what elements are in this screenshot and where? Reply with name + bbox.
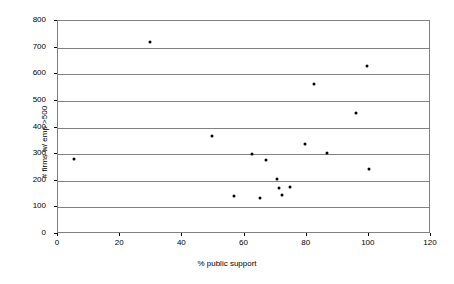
data-point (355, 111, 358, 114)
data-point (148, 40, 151, 43)
gridline-y (58, 74, 429, 75)
y-tick-label: 500 (0, 96, 46, 104)
x-tick-label: 20 (115, 238, 124, 247)
x-tick-label: 60 (239, 238, 248, 247)
x-tick-mark (306, 233, 307, 236)
data-point (313, 82, 316, 85)
gridline-y (58, 181, 429, 182)
y-tick-mark (54, 20, 57, 21)
scatter-chart: # firms w/ emp >500 % public support 010… (0, 0, 454, 284)
gridline-y (58, 128, 429, 129)
y-tick-mark (54, 127, 57, 128)
y-tick-label: 400 (0, 123, 46, 131)
gridline-y (58, 48, 429, 49)
data-point (210, 135, 213, 138)
y-tick-mark (54, 100, 57, 101)
x-tick-mark (119, 233, 120, 236)
gridline-y (58, 207, 429, 208)
x-tick-label: 80 (301, 238, 310, 247)
y-tick-mark (54, 153, 57, 154)
data-point (367, 168, 370, 171)
y-tick-mark (54, 47, 57, 48)
gridline-y (58, 154, 429, 155)
data-point (276, 178, 279, 181)
x-tick-label: 40 (177, 238, 186, 247)
data-point (232, 194, 235, 197)
x-tick-mark (181, 233, 182, 236)
y-tick-label: 700 (0, 43, 46, 51)
x-tick-label: 100 (361, 238, 374, 247)
data-point (277, 187, 280, 190)
y-tick-mark (54, 73, 57, 74)
data-point (304, 143, 307, 146)
x-tick-mark (57, 233, 58, 236)
y-tick-mark (54, 206, 57, 207)
y-tick-mark (54, 180, 57, 181)
x-tick-label: 120 (423, 238, 436, 247)
data-point (325, 151, 328, 154)
x-tick-mark (430, 233, 431, 236)
x-tick-label: 0 (55, 238, 59, 247)
data-point (366, 65, 369, 68)
y-tick-label: 800 (0, 16, 46, 24)
data-point (259, 197, 262, 200)
y-tick-label: 200 (0, 176, 46, 184)
gridline-y (58, 101, 429, 102)
y-axis-title: # firms w/ emp >500 (40, 106, 49, 178)
data-point (280, 194, 283, 197)
x-axis-title: % public support (0, 259, 454, 268)
y-tick-label: 300 (0, 149, 46, 157)
y-tick-label: 100 (0, 202, 46, 210)
y-tick-label: 600 (0, 69, 46, 77)
x-tick-mark (244, 233, 245, 236)
data-point (72, 158, 75, 161)
data-point (288, 186, 291, 189)
data-point (251, 152, 254, 155)
data-point (265, 159, 268, 162)
x-tick-mark (368, 233, 369, 236)
y-tick-label: 0 (0, 229, 46, 237)
plot-area (57, 20, 430, 233)
